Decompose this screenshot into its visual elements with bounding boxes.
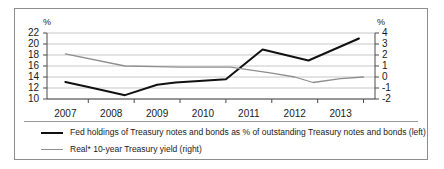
legend-item-fed-holdings: Fed holdings of Treasury notes and bonds…: [41, 128, 426, 137]
chart-canvas: [15, 9, 427, 121]
chart-legend: Fed holdings of Treasury notes and bonds…: [15, 121, 427, 159]
legend-swatch-line-icon: [41, 132, 63, 134]
legend-label: Real* 10-year Treasury yield (right): [70, 145, 202, 154]
legend-divider: [24, 121, 418, 122]
legend-item-real-yield: Real* 10-year Treasury yield (right): [41, 145, 202, 154]
plot-area: % % 10121416182022 -2-101234 20072008200…: [15, 9, 427, 121]
legend-swatch-line-icon: [41, 149, 63, 150]
chart-frame: % % 10121416182022 -2-101234 20072008200…: [14, 8, 428, 160]
chart-figure: % % 10121416182022 -2-101234 20072008200…: [0, 0, 444, 169]
legend-label: Fed holdings of Treasury notes and bonds…: [70, 128, 426, 137]
